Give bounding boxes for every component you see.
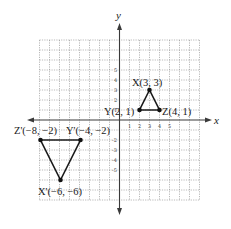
y-tick-neg-2: -2 [112, 137, 117, 143]
label-z: Z(4, 1) [162, 106, 192, 118]
label-x-prime: X'(−6, −6) [38, 186, 83, 198]
vertex-y-prime [78, 138, 83, 143]
y-axis-up-arrow-icon [117, 23, 122, 30]
y-tick-3: 3 [114, 87, 117, 93]
vertex-x-prime [58, 178, 63, 183]
label-z-prime: Z'(−8, −2) [14, 125, 57, 137]
label-x: X(3, 3) [132, 77, 163, 89]
vertex-y [137, 108, 142, 113]
y-tick-neg-4: -4 [112, 157, 117, 163]
x-axis-left-arrow-icon [27, 118, 34, 123]
x-axis-right-arrow-icon [205, 118, 212, 123]
x-tick-4: 4 [158, 123, 161, 129]
y-axis-down-arrow-icon [117, 208, 122, 215]
y-tick-neg-3: -3 [112, 147, 117, 153]
vertex-x [147, 88, 152, 93]
x-axis-label: x [213, 114, 219, 126]
x-tick-1: 1 [128, 123, 131, 129]
y-axis-label: y [115, 9, 121, 21]
label-y-prime: Y'(−4, −2) [66, 125, 111, 137]
x-tick-labels: 1 2 3 4 5 [128, 123, 171, 129]
y-tick-neg-5: -5 [112, 167, 117, 173]
coordinate-plane: x y 1 2 3 4 5 1 2 3 4 5 -2 -3 -4 -5 X(3,… [0, 0, 231, 229]
vertex-z-prime [38, 138, 43, 143]
triangle-xyz-prime-edges [41, 140, 81, 180]
y-tick-5: 5 [114, 67, 117, 73]
triangle-xyz-prime: Z'(−8, −2) Y'(−4, −2) X'(−6, −6) [14, 125, 111, 198]
x-tick-5: 5 [168, 123, 171, 129]
x-tick-3: 3 [148, 123, 151, 129]
y-tick-2: 2 [114, 97, 117, 103]
y-tick-4: 4 [114, 77, 117, 83]
label-y: Y(2, 1) [104, 106, 135, 118]
x-tick-2: 2 [138, 123, 141, 129]
